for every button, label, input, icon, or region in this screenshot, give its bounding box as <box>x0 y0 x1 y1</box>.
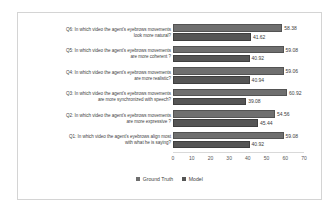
bar-ground-truth: 59.06 <box>173 67 317 75</box>
bar-rect <box>173 33 251 41</box>
bar-rect <box>173 110 275 118</box>
chart-legend: Ground TruthModel <box>18 176 321 182</box>
bar-value-label: 58.38 <box>282 25 297 31</box>
chart-row: Q6: In which video the agent's eyebrows … <box>24 22 317 44</box>
legend-label: Ground Truth <box>143 176 174 182</box>
legend-item[interactable]: Ground Truth <box>136 176 173 182</box>
bar-group: 58.3841.62 <box>173 22 317 44</box>
bar-ground-truth: 60.92 <box>173 89 317 97</box>
bar-model: 41.62 <box>173 33 317 41</box>
x-tick-label: 70 <box>301 155 307 161</box>
category-label: Q6: In which video the agent's eyebrows … <box>24 27 171 39</box>
bar-group: 60.9239.08 <box>173 87 317 109</box>
bar-rows: Q6: In which video the agent's eyebrows … <box>24 22 317 151</box>
bar-value-label: 59.08 <box>284 47 299 53</box>
category-label: Q1: In which video the agent's eyebrows … <box>24 134 171 146</box>
bar-rect <box>173 46 284 54</box>
chart-figure: Q6: In which video the agent's eyebrows … <box>17 12 322 200</box>
x-tick-label: 10 <box>189 155 195 161</box>
bar-value-label: 40.92 <box>250 141 265 147</box>
plot-area: Q6: In which video the agent's eyebrows … <box>18 13 321 199</box>
bar-group: 59.0840.92 <box>173 44 317 66</box>
bar-group: 59.0840.92 <box>173 130 317 152</box>
x-axis-ticks: 010203040506070 <box>173 155 304 164</box>
chart-row: Q2: In which video the agent's eyebrows … <box>24 108 317 130</box>
bar-rect <box>173 119 258 127</box>
bar-value-label: 60.92 <box>287 90 302 96</box>
bar-ground-truth: 58.38 <box>173 24 317 32</box>
bar-rect <box>173 98 246 106</box>
x-tick-label: 40 <box>245 155 251 161</box>
bar-rect <box>173 141 250 149</box>
bar-model: 40.94 <box>173 76 317 84</box>
chart-row: Q1: In which video the agent's eyebrows … <box>24 130 317 152</box>
bar-value-label: 54.56 <box>275 111 290 117</box>
bar-model: 40.92 <box>173 55 317 63</box>
legend-swatch-icon <box>182 177 186 181</box>
bar-rect <box>173 24 282 32</box>
chart-row: Q4: In which video the agent's eyebrows … <box>24 65 317 87</box>
bar-value-label: 40.92 <box>250 55 265 61</box>
category-label: Q3: In which video the agent's eyebrows … <box>24 91 171 103</box>
chart-row: Q3: In which video the agent's eyebrows … <box>24 87 317 109</box>
bar-group: 59.0640.94 <box>173 65 317 87</box>
bar-value-label: 59.08 <box>284 133 299 139</box>
legend-label: Model <box>189 176 203 182</box>
x-tick-label: 0 <box>172 155 175 161</box>
x-tick-label: 50 <box>264 155 270 161</box>
x-tick-label: 20 <box>208 155 214 161</box>
x-tick-label: 30 <box>226 155 232 161</box>
bar-value-label: 39.08 <box>246 98 261 104</box>
chart-row: Q5: In which video the agent's eyebrows … <box>24 44 317 66</box>
legend-item[interactable]: Model <box>182 176 203 182</box>
x-tick-label: 60 <box>283 155 289 161</box>
bar-ground-truth: 54.56 <box>173 110 317 118</box>
bar-rect <box>173 132 284 140</box>
bar-ground-truth: 59.08 <box>173 46 317 54</box>
bar-model: 45.44 <box>173 119 317 127</box>
bar-rect <box>173 55 250 63</box>
bar-value-label: 40.94 <box>250 77 265 83</box>
category-label: Q2: In which video the agent's eyebrows … <box>24 113 171 125</box>
x-axis-line <box>173 152 304 153</box>
category-label: Q5: In which video the agent's eyebrows … <box>24 48 171 60</box>
bar-ground-truth: 59.08 <box>173 132 317 140</box>
bar-value-label: 59.06 <box>284 68 299 74</box>
bar-group: 54.5645.44 <box>173 108 317 130</box>
bar-model: 39.08 <box>173 98 317 106</box>
bar-rect <box>173 76 250 84</box>
bar-rect <box>173 89 287 97</box>
category-label: Q4: In which video the agent's eyebrows … <box>24 70 171 82</box>
bar-rect <box>173 67 284 75</box>
bar-model: 40.92 <box>173 141 317 149</box>
bar-value-label: 41.62 <box>251 34 266 40</box>
legend-swatch-icon <box>136 177 140 181</box>
bar-value-label: 45.44 <box>258 120 273 126</box>
